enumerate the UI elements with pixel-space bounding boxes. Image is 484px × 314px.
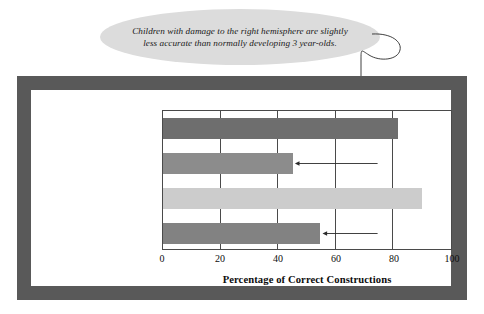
xtick-20: 20 [215,253,225,264]
bar-left-hemisphere [163,118,398,139]
chart-outer-frame: Children with Left Hemisphere Damage Chi… [17,76,467,300]
bar-right-hemisphere [163,153,293,174]
xtick-80: 80 [389,253,399,264]
bar-3-year-olds [163,223,320,244]
plot-area [162,110,452,250]
xtick-60: 60 [331,253,341,264]
callout-text: Children with damage to the right hemisp… [126,25,354,49]
chart-white-panel: Children with Left Hemisphere Damage Chi… [31,90,451,286]
xtick-40: 40 [273,253,283,264]
xtick-100: 100 [445,253,460,264]
bar-4-year-olds [163,188,422,209]
x-axis-title: Percentage of Correct Constructions [162,274,452,285]
xtick-0: 0 [160,253,165,264]
callout-bubble: Children with damage to the right hemisp… [100,9,380,65]
